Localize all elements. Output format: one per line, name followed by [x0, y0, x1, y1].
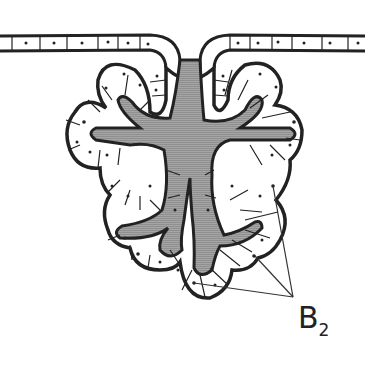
label-subscript: 2 [319, 320, 330, 340]
label-letter: B [298, 300, 319, 335]
label-b2: B2 [298, 300, 329, 340]
